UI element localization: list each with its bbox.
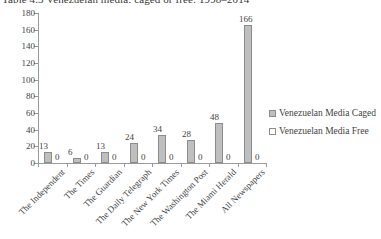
bar-group: 340 bbox=[156, 13, 185, 163]
bar-value-caged: 28 bbox=[182, 130, 191, 139]
y-axis-tick-label: 80 bbox=[26, 92, 35, 101]
x-axis-tick bbox=[95, 163, 96, 167]
bar-group: 240 bbox=[128, 13, 157, 163]
bar-caged[interactable] bbox=[73, 158, 81, 163]
bar-group: 130 bbox=[99, 13, 128, 163]
y-axis-tick-label: 40 bbox=[26, 125, 35, 134]
legend-item-label: Venezuelan Media Free bbox=[279, 127, 369, 136]
x-axis-label-text: The Independent bbox=[17, 167, 67, 217]
bar-group: 280 bbox=[185, 13, 214, 163]
bar-value-caged: 166 bbox=[239, 15, 253, 24]
x-axis-tick bbox=[38, 163, 39, 167]
bar-value-free: 0 bbox=[198, 153, 203, 162]
y-axis-tick-label: 0 bbox=[31, 159, 36, 168]
bar-value-free: 0 bbox=[84, 153, 89, 162]
x-axis-tick bbox=[152, 163, 153, 167]
y-axis-tick-label-slot: 60 bbox=[38, 113, 39, 114]
bar-value-free: 0 bbox=[169, 153, 174, 162]
x-axis-tick bbox=[124, 163, 125, 167]
bar-group: 1660 bbox=[242, 13, 271, 163]
y-axis-tick-label: 160 bbox=[22, 25, 36, 34]
y-axis-tick-label-slot: 180 bbox=[38, 13, 39, 14]
bar-value-caged: 48 bbox=[210, 113, 219, 122]
y-axis-tick-label-slot: 120 bbox=[38, 63, 39, 64]
x-axis-tick bbox=[238, 163, 239, 167]
bar-group: 130 bbox=[42, 13, 71, 163]
y-axis-tick-label: 100 bbox=[22, 75, 36, 84]
y-axis-tick-label: 140 bbox=[22, 42, 36, 51]
y-axis-tick-label: 120 bbox=[22, 59, 36, 68]
bar-value-free: 0 bbox=[141, 153, 146, 162]
chart-title: Table 4.5 Venezuelan media: caged or fre… bbox=[2, 0, 249, 5]
bar-caged[interactable] bbox=[130, 143, 138, 163]
y-axis-tick-label-slot: 160 bbox=[38, 30, 39, 31]
bar-caged[interactable] bbox=[244, 25, 252, 163]
y-axis-tick-label-slot: 40 bbox=[38, 130, 39, 131]
bar-caged[interactable] bbox=[158, 135, 166, 163]
x-axis-label: The Independent bbox=[17, 167, 67, 217]
bar-caged[interactable] bbox=[44, 152, 52, 163]
bar-value-caged: 24 bbox=[125, 133, 134, 142]
x-axis-tick bbox=[209, 163, 210, 167]
legend-item[interactable]: Venezuelan Media Caged bbox=[269, 109, 376, 118]
bar-caged[interactable] bbox=[215, 123, 223, 163]
bar-value-free: 0 bbox=[226, 153, 231, 162]
bar-value-free: 0 bbox=[255, 153, 260, 162]
y-axis-tick-label-slot: 140 bbox=[38, 46, 39, 47]
chart-figure: Table 4.5 Venezuelan media: caged or fre… bbox=[0, 0, 381, 239]
y-axis-tick-label-slot: 80 bbox=[38, 96, 39, 97]
plot-area: 180160140120100806040200 130601302403402… bbox=[38, 13, 266, 163]
chart-legend: Venezuelan Media CagedVenezuelan Media F… bbox=[269, 109, 376, 145]
y-axis-tick-label: 20 bbox=[26, 142, 35, 151]
bar-value-caged: 13 bbox=[39, 142, 48, 151]
x-axis-tick bbox=[266, 163, 267, 167]
bar-caged[interactable] bbox=[101, 152, 109, 163]
bar-value-caged: 34 bbox=[153, 125, 162, 134]
y-axis-tick-label: 60 bbox=[26, 109, 35, 118]
legend-swatch-icon bbox=[269, 128, 276, 135]
bar-value-free: 0 bbox=[55, 153, 60, 162]
x-axis-tick bbox=[181, 163, 182, 167]
bar-value-free: 0 bbox=[112, 153, 117, 162]
x-axis-tick bbox=[67, 163, 68, 167]
y-axis-tick-label-slot: 100 bbox=[38, 80, 39, 81]
legend-item-label: Venezuelan Media Caged bbox=[279, 109, 376, 118]
legend-swatch-icon bbox=[269, 110, 276, 117]
x-axis-label: The Miami Herald bbox=[184, 167, 238, 221]
bar-value-caged: 6 bbox=[68, 148, 73, 157]
y-axis-tick-label: 180 bbox=[22, 9, 36, 18]
bar-caged[interactable] bbox=[187, 140, 195, 163]
bar-group: 480 bbox=[213, 13, 242, 163]
bar-value-caged: 13 bbox=[96, 142, 105, 151]
legend-item[interactable]: Venezuelan Media Free bbox=[269, 127, 376, 136]
x-axis-label-text: The Miami Herald bbox=[184, 167, 238, 221]
